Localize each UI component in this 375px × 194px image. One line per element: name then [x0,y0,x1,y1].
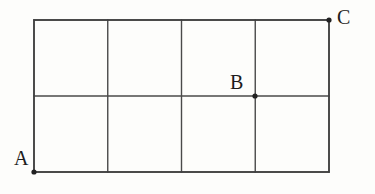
point-a-dot [31,169,36,174]
point-c-dot [326,17,331,22]
grid-diagram-svg [0,0,375,194]
point-b-label: B [230,72,243,92]
point-a-label: A [14,148,28,168]
point-b-dot [252,93,257,98]
grid-figure: A B C [0,0,375,194]
point-c-label: C [337,7,350,27]
